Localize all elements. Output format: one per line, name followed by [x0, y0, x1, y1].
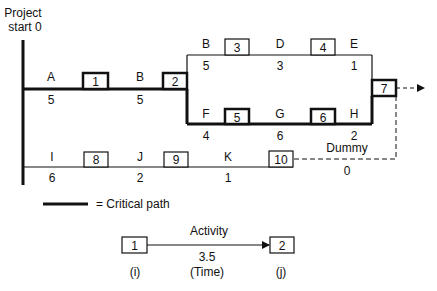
node-8: 8	[84, 152, 108, 167]
legend-to-node-label: 2	[279, 239, 286, 253]
activity-B-time: 5	[137, 93, 144, 107]
activity-H-name: H	[350, 107, 359, 121]
activity-J-name: J	[137, 150, 143, 164]
network-diagram: Project start 0 1 2 3 4 5 6	[0, 0, 437, 291]
legend-from-label: (i)	[130, 265, 141, 279]
node-6: 6	[311, 109, 335, 125]
node-6-label: 6	[320, 111, 327, 125]
node-3: 3	[225, 39, 249, 55]
legend-time-label: (Time)	[190, 265, 224, 279]
activity-F-time: 4	[203, 129, 210, 143]
activity-B-name: B	[136, 70, 144, 84]
legend-critical-path-label: = Critical path	[96, 197, 170, 211]
node-2-label: 2	[172, 75, 179, 89]
activity-I-name: I	[50, 150, 53, 164]
legend-from-node-label: 1	[131, 239, 138, 253]
project-start-title-line1: Project	[4, 6, 42, 20]
activity-A-name: A	[47, 70, 55, 84]
node-10-label: 10	[274, 153, 288, 167]
activity-B2-time: 5	[203, 59, 210, 73]
activity-F-name: F	[202, 107, 209, 121]
node-4-label: 4	[320, 41, 327, 55]
activity-dummy-time: 0	[344, 164, 351, 178]
node-8-label: 8	[93, 153, 100, 167]
activity-A-time: 5	[48, 93, 55, 107]
activity-D-name: D	[276, 37, 285, 51]
legend-example-to-node: 2	[270, 237, 294, 253]
activity-I-time: 6	[49, 171, 56, 185]
activity-K-name: K	[224, 150, 232, 164]
node-7-label: 7	[381, 82, 388, 96]
node-2: 2	[163, 73, 187, 89]
activity-K-time: 1	[225, 171, 232, 185]
node-5: 5	[225, 109, 249, 125]
activity-G-name: G	[275, 107, 284, 121]
activity-E-name: E	[350, 37, 358, 51]
node-1: 1	[83, 73, 108, 89]
legend-to-label: (j)	[276, 265, 287, 279]
activity-D-time: 3	[277, 59, 284, 73]
activity-E-time: 1	[351, 59, 358, 73]
legend-activity-label: Activity	[190, 224, 228, 238]
node-7: 7	[372, 80, 396, 96]
node-1-label: 1	[92, 75, 99, 89]
activity-G-time: 6	[277, 129, 284, 143]
project-start-title-line2: start 0	[8, 20, 42, 34]
node-5-label: 5	[234, 111, 241, 125]
activity-J-time: 2	[137, 171, 144, 185]
node-9: 9	[164, 152, 188, 167]
node-9-label: 9	[173, 153, 180, 167]
activity-B2-name: B	[202, 37, 210, 51]
legend-example-from-node: 1	[122, 237, 147, 253]
node-10: 10	[269, 151, 293, 167]
node-3-label: 3	[234, 41, 241, 55]
node-4: 4	[311, 39, 335, 55]
legend-time-value: 3.5	[199, 250, 216, 264]
activity-dummy-name: Dummy	[326, 141, 367, 155]
